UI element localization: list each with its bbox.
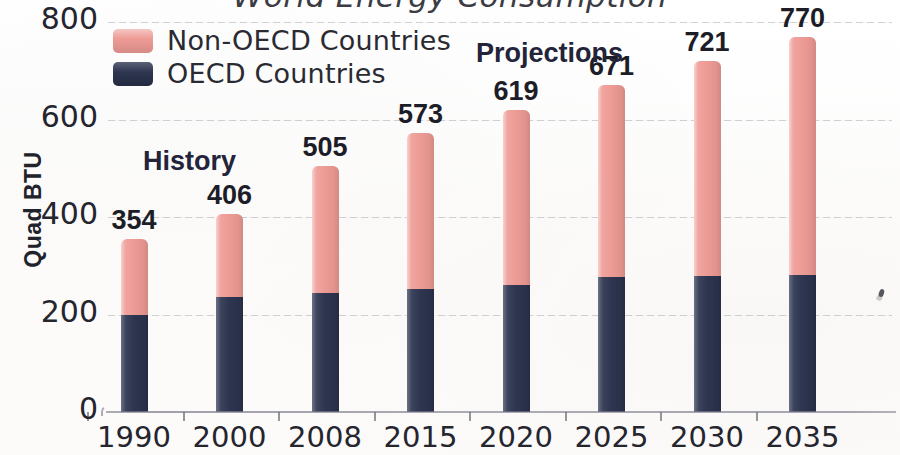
x-tick-label-1990: 1990 (79, 420, 189, 454)
bar-segment-non-oecd[interactable] (789, 37, 816, 275)
bar-segment-oecd[interactable] (407, 289, 434, 412)
annotation-projections: Projections (476, 38, 623, 69)
bar-2000[interactable] (216, 214, 243, 412)
bar-segment-non-oecd[interactable] (503, 110, 530, 285)
chart-page: World Energy Consumption Quad BTU 354406… (0, 0, 900, 455)
x-tick-label-2000: 2000 (175, 420, 285, 454)
legend-label-oecd: OECD Countries (167, 58, 386, 89)
x-tick-label-2008: 2008 (270, 420, 380, 454)
gridline-600 (108, 120, 892, 121)
y-tick-label: 600 (6, 99, 98, 134)
bar-segment-oecd[interactable] (694, 276, 721, 413)
bar-segment-non-oecd[interactable] (694, 61, 721, 276)
annotation-history: History (143, 146, 236, 177)
x-tick-label-2015: 2015 (366, 420, 476, 454)
bar-1990[interactable] (121, 239, 148, 412)
bar-segment-oecd[interactable] (503, 285, 530, 412)
bar-2030[interactable] (694, 61, 721, 412)
bar-segment-oecd[interactable] (789, 275, 816, 412)
x-tick-label-2020: 2020 (461, 420, 571, 454)
bar-segment-non-oecd[interactable] (121, 239, 148, 315)
legend: Non-OECD Countries OECD Countries (113, 24, 451, 90)
y-tick-label: 400 (6, 196, 98, 231)
bar-2025[interactable] (598, 85, 625, 412)
bar-segment-non-oecd[interactable] (216, 214, 243, 297)
x-tick-label-2025: 2025 (557, 420, 667, 454)
legend-swatch-oecd-icon (113, 62, 153, 86)
x-axis-line (106, 411, 896, 413)
page-title: World Energy Consumption (0, 0, 900, 14)
bar-segment-non-oecd[interactable] (312, 166, 339, 293)
bar-2035[interactable] (789, 37, 816, 412)
legend-label-non-oecd: Non-OECD Countries (167, 25, 451, 56)
y-tick-label: 800 (6, 1, 98, 36)
bar-segment-oecd[interactable] (598, 277, 625, 412)
bar-2020[interactable] (503, 110, 530, 412)
bar-segment-oecd[interactable] (312, 293, 339, 412)
bar-value-label: 505 (265, 132, 385, 163)
legend-item-non-oecd[interactable]: Non-OECD Countries (113, 24, 451, 57)
y-tick-label: 200 (6, 294, 98, 329)
legend-swatch-non-oecd-icon (113, 29, 153, 53)
bar-2008[interactable] (312, 166, 339, 412)
bar-2015[interactable] (407, 133, 434, 412)
x-tick-label-2030: 2030 (652, 420, 762, 454)
bar-segment-oecd[interactable] (121, 315, 148, 412)
x-tick-label-2035: 2035 (748, 420, 858, 454)
bar-segment-oecd[interactable] (216, 297, 243, 412)
bar-segment-non-oecd[interactable] (598, 85, 625, 278)
bar-value-label: 406 (170, 180, 290, 211)
bar-segment-non-oecd[interactable] (407, 133, 434, 289)
legend-item-oecd[interactable]: OECD Countries (113, 57, 451, 90)
